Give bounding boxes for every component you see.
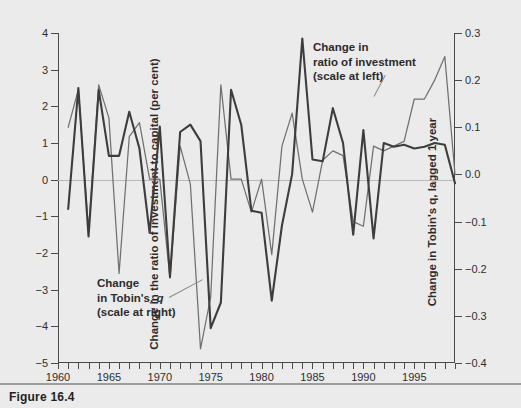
x-axis-tick [414,363,415,369]
right-axis-tick-label: −0.3 [465,310,487,321]
x-axis-tick [282,363,283,369]
x-axis-tick [78,363,79,369]
x-axis-tick [180,363,181,369]
investment-label-line-3: (scale at left) [313,69,416,84]
left-axis-tick-label: 0 [42,174,48,185]
x-axis-tick [323,363,324,369]
left-axis-tick-label: 2 [42,101,48,112]
tobins-label-line-2: in Tobin's, q [97,291,176,306]
x-axis-tick [374,363,375,369]
x-axis-tick [251,363,252,369]
x-axis-tick [333,363,334,369]
x-axis-tick [343,363,344,369]
left-axis-tick-label: −5 [35,358,48,369]
right-axis-tick [455,316,462,317]
left-axis-tick-label: 1 [42,138,48,149]
x-axis-tick-label: 1970 [148,372,172,383]
x-axis-tick [89,363,90,369]
tobins-q-series-label: Change in Tobin's, q (scale at right) [97,276,176,320]
x-axis-tick [160,363,161,369]
tobins-label-line-1: Change [97,276,176,291]
x-axis-tick [302,363,303,369]
right-axis-tick-label: 0.2 [465,75,480,86]
x-axis-tick [201,363,202,369]
investment-label-line-2: ratio of investment [313,55,416,70]
investment-label-line-1: Change in [313,40,416,55]
x-axis-tick [292,363,293,369]
right-axis-tick-label: 0.3 [465,28,480,39]
x-axis-tick [435,363,436,369]
figure-caption: Figure 16.4 [9,390,75,404]
x-axis-tick [394,363,395,369]
x-axis-tick [211,363,212,369]
x-axis-tick-label: 1985 [300,372,324,383]
right-axis-tick-label: −0.2 [465,263,487,274]
right-axis-tick [455,127,462,128]
left-axis-tick-label: −2 [35,248,48,259]
left-axis-tick-label: −4 [35,321,48,332]
left-axis-tick [51,326,58,327]
right-axis-tick-label: 0.1 [465,122,480,133]
left-axis-tick [51,180,58,181]
right-axis-tick [455,222,462,223]
x-axis-tick [150,363,151,369]
right-axis-tick [455,363,462,364]
x-axis-tick-label: 1990 [351,372,375,383]
left-axis-tick [51,143,58,144]
caption-divider [0,383,521,385]
x-axis-tick [231,363,232,369]
left-axis-tick [51,253,58,254]
investment-series-label: Change in ratio of investment (scale at … [313,40,416,84]
x-axis-tick [109,363,110,369]
x-axis-tick [190,363,191,369]
left-axis-tick [51,33,58,34]
x-axis-tick [68,363,69,369]
left-axis-tick [51,70,58,71]
tobins-label-line-3: (scale at right) [97,305,176,320]
x-axis-tick [272,363,273,369]
x-axis-tick-label: 1975 [198,372,222,383]
x-axis-tick [363,363,364,369]
left-axis-tick-label: 3 [42,64,48,75]
left-axis-tick [51,290,58,291]
right-axis-tick [455,174,462,175]
x-axis-tick [241,363,242,369]
x-axis-tick-label: 1995 [402,372,426,383]
x-axis-tick-label: 1960 [46,372,70,383]
x-axis-tick-label: 1980 [249,372,273,383]
left-axis-tick-label: −1 [35,211,48,222]
x-axis-tick [58,363,59,369]
left-axis-tick [51,106,58,107]
x-axis-tick [312,363,313,369]
x-axis-tick [129,363,130,369]
right-axis-tick [455,33,462,34]
left-axis-tick-label: −3 [35,284,48,295]
figure-container: Change in the ratio of investment to cap… [0,0,521,408]
x-axis-tick-label: 1965 [97,372,121,383]
x-axis-tick [353,363,354,369]
x-axis-tick [119,363,120,369]
x-axis-tick [445,363,446,369]
x-axis-tick [99,363,100,369]
x-axis-tick [384,363,385,369]
left-axis-tick [51,363,58,364]
right-axis-tick [455,269,462,270]
x-axis-tick [404,363,405,369]
left-axis-tick [51,216,58,217]
right-axis-tick-label: 0.0 [465,169,480,180]
x-axis-tick [424,363,425,369]
right-axis-tick [455,80,462,81]
x-axis-tick [455,363,456,369]
x-axis-tick [170,363,171,369]
x-axis-tick [139,363,140,369]
left-axis-tick-label: 4 [42,28,48,39]
x-axis-tick [262,363,263,369]
right-axis-tick-label: −0.1 [465,216,487,227]
x-axis-tick [221,363,222,369]
right-axis-tick-label: −0.4 [465,358,487,369]
